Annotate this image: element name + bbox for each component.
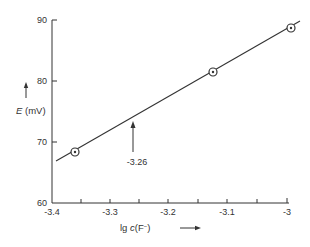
x-tick-label: -3 xyxy=(283,207,291,217)
y-axis-label: E (mV) xyxy=(16,105,46,116)
x-axis-label: lg c(F−) xyxy=(120,222,150,233)
y-tick-label: 90 xyxy=(37,15,47,25)
annotation-arrow-icon xyxy=(131,121,136,152)
data-point xyxy=(209,68,217,76)
x-tick-label: -3.2 xyxy=(160,207,176,217)
x-tick-label: -3.1 xyxy=(219,207,235,217)
x-arrow-icon xyxy=(180,226,201,230)
y-arrow-icon xyxy=(24,82,28,98)
fit-line xyxy=(56,21,300,161)
y-ticks xyxy=(52,20,57,142)
x-tick-label: -3.4 xyxy=(44,207,60,217)
annotation-label: -3.26 xyxy=(127,157,148,167)
x-tick-label: -3.3 xyxy=(102,207,118,217)
y-tick-label: 80 xyxy=(37,76,47,86)
x-ticks xyxy=(81,198,287,203)
data-point xyxy=(71,148,79,156)
y-tick-label: 70 xyxy=(37,137,47,147)
chart-svg: 90 80 70 60 -3.4 -3.3 -3.2 -3.1 -3 xyxy=(0,0,310,247)
data-points xyxy=(71,24,295,156)
data-point xyxy=(287,24,295,32)
